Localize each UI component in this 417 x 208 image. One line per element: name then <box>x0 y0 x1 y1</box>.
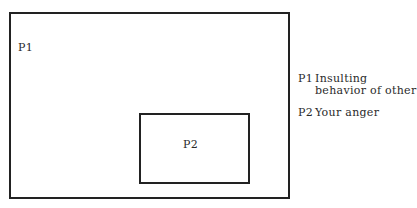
legend-item-p2: P2 Your anger <box>298 107 417 119</box>
legend-text: Insulting behavior of other <box>315 73 417 97</box>
legend-key: P1 <box>298 73 315 97</box>
legend-text: Your anger <box>315 107 417 119</box>
legend-item-p1: P1 Insulting behavior of other <box>298 73 417 97</box>
inner-box-label: P2 <box>183 139 198 151</box>
legend: P1 Insulting behavior of other P2 Your a… <box>298 73 417 129</box>
outer-box-label: P1 <box>18 42 33 54</box>
legend-key: P2 <box>298 107 315 119</box>
